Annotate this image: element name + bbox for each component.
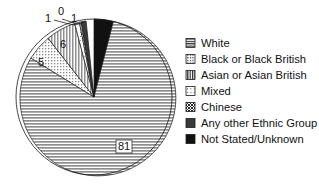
- legend-label-mixed: Mixed: [201, 85, 231, 97]
- slice-label-asian-british-value: 6: [60, 38, 66, 50]
- legend-swatch-other-ethnic: [186, 119, 195, 128]
- legend-swatch-asian-british: [186, 71, 195, 80]
- slice-label-mixed-value: 1: [45, 12, 51, 24]
- legend-swatch-not-stated: [186, 135, 195, 144]
- slice-label-other-ethnic-value: 1: [71, 12, 77, 24]
- legend-swatch-black-british: [186, 55, 195, 64]
- pie-slices-group: [16, 19, 176, 176]
- legend-item-other-ethnic[interactable]: Any other Ethnic Group: [186, 117, 317, 129]
- legend-item-white[interactable]: White: [186, 37, 230, 49]
- legend-item-chinese[interactable]: Chinese: [186, 101, 242, 113]
- legend-label-white: White: [201, 37, 230, 49]
- slice-label-white: 81: [116, 140, 132, 153]
- legend-item-not-stated[interactable]: Not Stated/Unknown: [186, 133, 304, 145]
- chart-canvas: 81 4 6 5 1 0 1 White Black or Black Brit: [0, 0, 319, 189]
- legend-item-asian-british[interactable]: Asian or Asian British: [186, 69, 307, 81]
- slice-callouts-group: 1 0 1: [45, 5, 84, 25]
- pie-chart-figure: 81 4 6 5 1 0 1 White Black or Black Brit: [0, 0, 319, 189]
- legend-item-black-british[interactable]: Black or Black British: [186, 53, 306, 65]
- legend-swatch-chinese: [186, 103, 195, 112]
- slice-label-black-british-value: 5: [38, 56, 44, 68]
- legend-item-mixed[interactable]: Mixed: [186, 85, 231, 97]
- slice-label-chinese-value: 0: [58, 5, 64, 17]
- slice-label-white-value: 81: [118, 140, 130, 152]
- legend-label-other-ethnic: Any other Ethnic Group: [201, 117, 317, 129]
- legend-label-not-stated: Not Stated/Unknown: [201, 133, 304, 145]
- legend-label-chinese: Chinese: [201, 101, 242, 113]
- legend-label-asian-british: Asian or Asian British: [201, 69, 307, 81]
- legend-swatch-white: [186, 39, 195, 48]
- legend-label-black-british: Black or Black British: [201, 53, 306, 65]
- slice-label-not-stated-value: 4: [99, 33, 105, 45]
- legend-swatch-mixed: [186, 87, 195, 96]
- legend: White Black or Black British Asian or As…: [186, 37, 317, 145]
